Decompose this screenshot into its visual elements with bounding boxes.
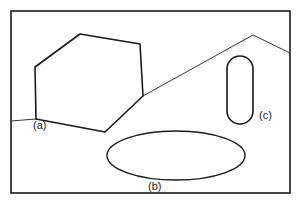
- rounded-pillar: [227, 56, 253, 124]
- shape-label-c: (c): [259, 110, 272, 121]
- scene-drawing: [0, 0, 301, 204]
- ground-ellipse: [107, 131, 245, 180]
- figure-canvas: (a) (b) (c): [0, 0, 301, 204]
- shape-label-a: (a): [33, 120, 46, 131]
- shape-label-b: (b): [148, 181, 161, 192]
